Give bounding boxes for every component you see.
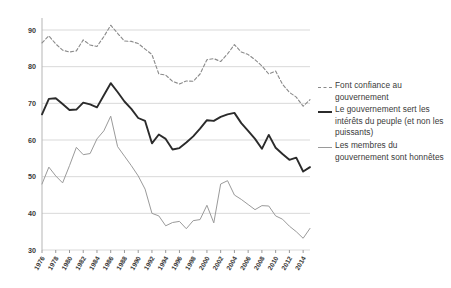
gridlines xyxy=(42,30,310,250)
solid-thin-line-icon xyxy=(318,142,332,154)
x-axis-tick-label: 1994 xyxy=(156,255,170,271)
chart-legend: Font confiance au gouvernement Le gouver… xyxy=(318,80,451,164)
data-series-lines xyxy=(42,25,310,238)
y-axis-tick-label: 30 xyxy=(28,246,36,255)
legend-item-label: Font confiance au gouvernement xyxy=(335,80,451,103)
x-axis-tick-label: 1992 xyxy=(142,255,156,271)
x-axis-tick-label: 2000 xyxy=(197,255,211,271)
y-axis-tick-label: 90 xyxy=(28,26,36,35)
legend-item-confiance[interactable]: Font confiance au gouvernement xyxy=(318,80,451,103)
legend-item-interets-peuple[interactable]: Le gouvernement sert les intérêts du peu… xyxy=(318,104,451,139)
y-axis-tick-label: 60 xyxy=(28,136,36,145)
x-axis-tick-label: 2014 xyxy=(294,255,308,271)
series-line-0 xyxy=(42,25,310,106)
x-axis-tick-label: 2012 xyxy=(280,255,294,271)
x-axis-tick-label: 1998 xyxy=(184,255,198,271)
y-axis-tick-label: 80 xyxy=(28,62,36,71)
x-axis-tick-label: 2010 xyxy=(266,255,280,271)
series-line-2 xyxy=(42,116,310,238)
legend-item-label: Les membres du gouvernement sont honnête… xyxy=(335,140,451,163)
x-axis-tick-label: 1980 xyxy=(60,255,74,271)
x-axis-tick-label: 1978 xyxy=(46,255,60,271)
chart-figure: 30405060708090 1976197819801982198419861… xyxy=(0,0,451,288)
x-axis-tick-label: 1984 xyxy=(87,255,101,271)
y-axis-tick-label: 70 xyxy=(28,99,36,108)
x-axis-tick-label: 1986 xyxy=(101,255,115,271)
dashed-line-icon xyxy=(318,82,332,94)
x-axis-tick-label: 1976 xyxy=(32,255,46,271)
solid-thick-line-icon xyxy=(318,106,332,118)
x-axis-tick-label: 2006 xyxy=(239,255,253,271)
x-axis-tick-label: 1982 xyxy=(74,255,88,271)
legend-item-honnetes[interactable]: Les membres du gouvernement sont honnête… xyxy=(318,140,451,163)
x-axis-tick-label: 1996 xyxy=(170,255,184,271)
x-axis-tick-label: 1988 xyxy=(115,255,129,271)
y-axis-tick-labels: 30405060708090 xyxy=(28,26,36,255)
y-axis-tick-label: 50 xyxy=(28,172,36,181)
x-axis-tick-label: 2004 xyxy=(225,255,239,271)
x-axis-tick-label: 2008 xyxy=(252,255,266,271)
legend-item-label: Le gouvernement sert les intérêts du peu… xyxy=(335,104,451,139)
x-axis-tick-labels: 1976197819801982198419861988199019921994… xyxy=(32,255,307,271)
series-line-1 xyxy=(42,83,310,171)
y-axis-tick-label: 40 xyxy=(28,209,36,218)
x-axis-tick-label: 2002 xyxy=(211,255,225,271)
x-axis-tick-label: 1990 xyxy=(129,255,143,271)
